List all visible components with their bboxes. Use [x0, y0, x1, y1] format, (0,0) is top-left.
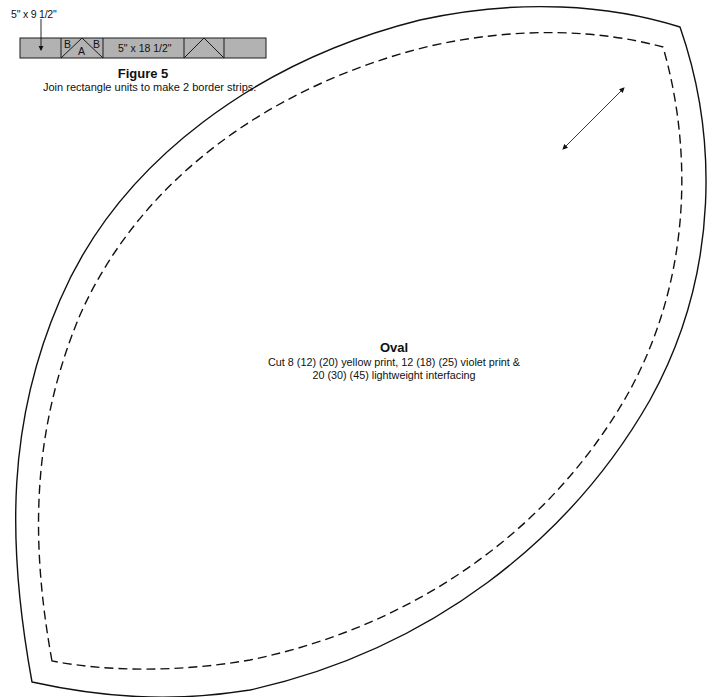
grain-line-arrow [563, 88, 624, 149]
segment-label-a: A [78, 45, 85, 57]
dimension-label-9-5: 5" x 9 1/2" [11, 8, 57, 20]
pattern-name: Oval [234, 340, 554, 355]
pattern-page: 5" x 9 1/2" B A B 5" x 18 1/2" Figure 5 … [0, 0, 719, 697]
figure-title: Figure 5 [43, 66, 243, 81]
cut-instructions-line-1: Cut 8 (12) (20) yellow print, 12 (18) (2… [234, 356, 554, 368]
segment-label-18-5: 5" x 18 1/2" [118, 42, 172, 54]
figure-caption: Join rectangle units to make 2 border st… [43, 81, 243, 93]
cut-instructions-line-2: 20 (30) (45) lightweight interfacing [234, 369, 554, 381]
segment-label-b-left: B [64, 38, 71, 50]
segment-label-b-right: B [93, 38, 100, 50]
